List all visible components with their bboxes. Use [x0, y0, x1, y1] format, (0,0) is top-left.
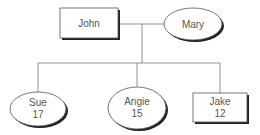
node-angie-age: 15 — [131, 108, 143, 119]
node-mary-name: Mary — [182, 19, 204, 30]
node-angie: Angie 15 — [108, 87, 168, 131]
node-angie-name: Angie — [124, 96, 150, 107]
node-jake: Jake 12 — [193, 93, 249, 124]
node-jake-name: Jake — [209, 96, 231, 107]
node-john: John — [60, 8, 120, 40]
node-sue: Sue 17 — [10, 92, 68, 128]
node-sue-name: Sue — [29, 97, 47, 108]
node-sue-age: 17 — [32, 109, 44, 120]
node-john-name: John — [78, 18, 100, 29]
family-tree-diagram: John Mary Sue 17 Angie 15 Jake 12 — [0, 0, 260, 135]
node-mary: Mary — [164, 8, 224, 42]
node-jake-age: 12 — [214, 108, 226, 119]
